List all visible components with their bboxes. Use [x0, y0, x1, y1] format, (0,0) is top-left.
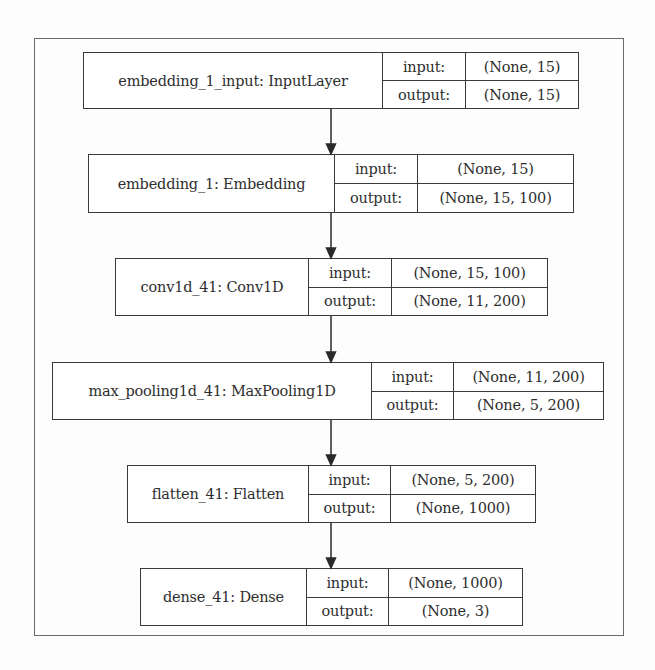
output-shape: (None, 15, 100): [418, 184, 573, 212]
output-key: output:: [309, 495, 391, 523]
node-label: conv1d_41: Conv1D: [116, 259, 309, 315]
output-key: output:: [335, 184, 418, 212]
output-shape: (None, 1000): [391, 495, 535, 523]
node-label: embedding_1_input: InputLayer: [84, 53, 383, 108]
node-input-layer: embedding_1_input: InputLayer input:(Non…: [83, 52, 579, 109]
diagram-frame: [34, 38, 624, 636]
input-shape: (None, 15, 100): [392, 259, 547, 287]
output-key: output:: [372, 392, 454, 420]
node-embedding: embedding_1: Embedding input:(None, 15) …: [88, 154, 574, 213]
node-maxpooling1d: max_pooling1d_41: MaxPooling1D input:(No…: [52, 362, 604, 420]
input-shape: (None, 15): [466, 53, 578, 80]
input-key: input:: [307, 569, 389, 597]
node-conv1d: conv1d_41: Conv1D input:(None, 15, 100) …: [115, 258, 548, 316]
output-shape: (None, 5, 200): [454, 392, 603, 420]
input-shape: (None, 5, 200): [391, 466, 535, 494]
output-key: output:: [383, 81, 466, 108]
output-shape: (None, 15): [466, 81, 578, 108]
input-key: input:: [372, 363, 454, 391]
node-flatten: flatten_41: Flatten input:(None, 5, 200)…: [127, 465, 536, 523]
input-key: input:: [383, 53, 466, 80]
output-shape: (None, 11, 200): [392, 288, 547, 316]
input-shape: (None, 1000): [389, 569, 522, 597]
node-label: flatten_41: Flatten: [128, 466, 309, 522]
node-dense: dense_41: Dense input:(None, 1000) outpu…: [140, 568, 523, 626]
node-label: max_pooling1d_41: MaxPooling1D: [53, 363, 372, 419]
input-shape: (None, 11, 200): [454, 363, 603, 391]
node-label: embedding_1: Embedding: [89, 155, 335, 212]
node-label: dense_41: Dense: [141, 569, 307, 625]
input-shape: (None, 15): [418, 155, 573, 183]
output-shape: (None, 3): [389, 598, 522, 626]
input-key: input:: [309, 466, 391, 494]
output-key: output:: [309, 288, 392, 316]
input-key: input:: [309, 259, 392, 287]
output-key: output:: [307, 598, 389, 626]
input-key: input:: [335, 155, 418, 183]
